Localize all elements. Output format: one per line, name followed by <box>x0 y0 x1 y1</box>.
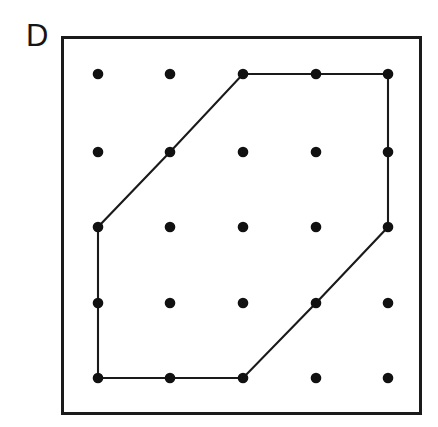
panel-label: D <box>26 20 48 51</box>
figure-panel: D <box>0 0 438 427</box>
plot-frame <box>61 36 422 415</box>
